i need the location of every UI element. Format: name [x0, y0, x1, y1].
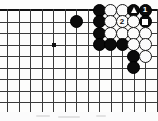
stone-black — [70, 15, 83, 28]
square-marker-icon — [142, 19, 148, 25]
move-number-label: 1 — [143, 6, 147, 14]
stone-white — [139, 50, 152, 63]
stone-black — [127, 61, 140, 74]
grid-line-vertical — [53, 9, 54, 121]
scan-smudge — [36, 115, 50, 117]
grid-line-vertical — [19, 9, 20, 121]
scan-artifact — [0, 112, 158, 121]
grid-line-vertical — [65, 9, 66, 121]
triangle-marker-icon — [131, 7, 137, 13]
go-board-diagram: 12 — [0, 0, 158, 121]
star-point — [52, 43, 56, 47]
grid-line-vertical — [88, 9, 89, 121]
grid-line-vertical — [42, 9, 43, 121]
scan-smudge — [96, 115, 106, 117]
scan-smudge — [58, 116, 80, 118]
grid-line-vertical — [30, 9, 31, 121]
grid-line-vertical — [7, 9, 8, 121]
move-number-label: 2 — [120, 18, 124, 26]
grid-line-vertical — [157, 9, 158, 121]
